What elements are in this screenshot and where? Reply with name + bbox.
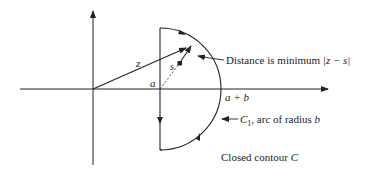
label-z: z	[135, 57, 141, 69]
distance-leader	[198, 56, 224, 60]
arc-arrow-icon-bottom	[196, 133, 200, 141]
label-distance: Distance is minimum |z − s|	[226, 54, 350, 66]
label-s: s	[170, 61, 174, 72]
label-a: a	[150, 77, 156, 89]
contour-diagram: z s a a + b Distance is minimum |z − s| …	[0, 0, 366, 177]
label-a-plus-b: a + b	[225, 91, 249, 103]
label-closed-contour: Closed contour C	[221, 151, 299, 163]
down-arrow-icon	[157, 117, 163, 124]
label-c1: C1, arc of radius b	[240, 113, 321, 128]
s-point	[178, 61, 183, 66]
